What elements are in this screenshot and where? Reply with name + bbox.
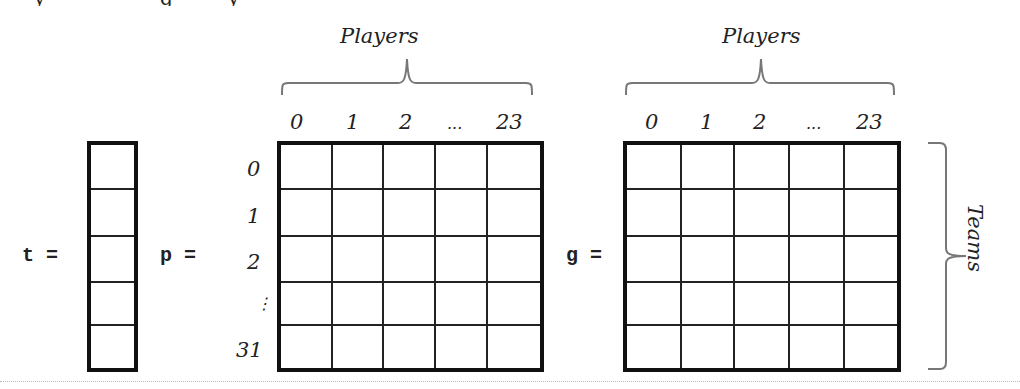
g-col-label: ... (806, 110, 821, 133)
row-divider (91, 235, 134, 237)
g-label: g = (566, 244, 602, 267)
row-divider (627, 324, 897, 326)
row-divider (281, 235, 540, 237)
row-divider (281, 324, 540, 326)
p-row-label: 2 (247, 250, 260, 274)
g-col-label: 1 (700, 110, 713, 134)
row-divider (281, 281, 540, 283)
p-row-label: ⋮ (256, 294, 272, 313)
teams-label: Teams (963, 198, 987, 278)
p-players-label: Players (340, 24, 418, 48)
row-divider (627, 188, 897, 190)
clipped-caption-text: y g y (0, 0, 1020, 6)
p-row-label: 1 (247, 204, 260, 228)
row-divider (627, 235, 897, 237)
g-col-label: 23 (856, 110, 883, 134)
p-col-label: 0 (290, 110, 303, 134)
col-divider (680, 145, 682, 368)
col-divider (434, 145, 436, 368)
p-players-brace-icon (280, 55, 534, 97)
p-col-label: 1 (346, 110, 359, 134)
p-col-label: 2 (399, 110, 412, 134)
clipped-glyph: y (34, 0, 45, 6)
g-players-brace-icon (624, 55, 896, 97)
col-divider (382, 145, 384, 368)
col-divider (331, 145, 333, 368)
row-divider (627, 281, 897, 283)
col-divider (788, 145, 790, 368)
p-label: p = (160, 244, 196, 267)
g-col-label: 2 (753, 110, 766, 134)
clipped-glyph: y (228, 0, 239, 6)
p-col-label: ... (447, 110, 462, 133)
row-divider (281, 188, 540, 190)
row-divider (91, 324, 134, 326)
divider (0, 381, 1020, 383)
g-players-label: Players (722, 24, 800, 48)
p-row-label: 31 (236, 338, 263, 362)
col-divider (733, 145, 735, 368)
p-col-label: 23 (496, 110, 523, 134)
p-matrix (277, 141, 544, 372)
p-row-label: 0 (247, 157, 260, 181)
col-divider (843, 145, 845, 368)
row-divider (91, 281, 134, 283)
t-vector (87, 141, 138, 372)
g-col-label: 0 (645, 110, 658, 134)
clipped-glyph: g (160, 0, 173, 6)
g-matrix (623, 141, 901, 372)
col-divider (486, 145, 488, 368)
row-divider (91, 188, 134, 190)
t-label: t = (22, 244, 58, 267)
